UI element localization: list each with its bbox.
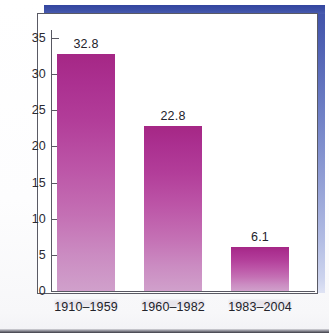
bar-value-label-1910-1959: 32.8 — [56, 38, 116, 51]
y-tick-0: 0 — [12, 285, 46, 297]
bar-1983-2004 — [231, 247, 289, 291]
y-axis-line — [51, 30, 52, 292]
x-tick-label-1983-2004: 1983–2004 — [220, 301, 300, 314]
y-tick-15: 15 — [12, 177, 46, 189]
bar-1960-1982 — [144, 126, 202, 291]
y-tick-5: 5 — [12, 249, 46, 261]
x-axis-line — [51, 291, 315, 292]
x-tick-label-1910-1959: 1910–1959 — [46, 301, 126, 314]
y-tick-label-10: 10 — [18, 213, 46, 226]
y-tick-30: 30 — [12, 68, 46, 80]
y-tick-20: 20 — [12, 140, 46, 152]
bar-chart: 35 30 25 20 15 10 5 0 32.8 22.8 6.1 1910… — [0, 0, 329, 333]
y-tick-label-30: 30 — [18, 68, 46, 81]
x-tick-label-1960-1982: 1960–1982 — [133, 301, 213, 314]
y-tick-label-15: 15 — [18, 177, 46, 190]
y-tick-label-20: 20 — [18, 140, 46, 153]
y-tick-label-35: 35 — [18, 32, 46, 45]
y-tick-label-0: 0 — [18, 285, 46, 298]
bar-1910-1959 — [57, 54, 115, 291]
bar-value-label-1983-2004: 6.1 — [230, 231, 290, 244]
y-tick-35: 35 — [12, 32, 46, 44]
y-tick-10: 10 — [12, 213, 46, 225]
y-tick-label-5: 5 — [18, 249, 46, 262]
bar-value-label-1960-1982: 22.8 — [143, 110, 203, 123]
y-tick-25: 25 — [12, 104, 46, 116]
y-tick-label-25: 25 — [18, 104, 46, 117]
